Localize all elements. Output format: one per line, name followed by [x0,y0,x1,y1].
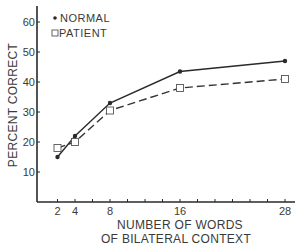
data-point-normal [55,155,59,159]
data-point-patient [282,76,289,83]
x-tick-label: 4 [72,205,78,217]
data-point-normal [283,59,287,63]
data-series [54,59,289,159]
x-tick-label: 2 [54,205,60,217]
x-axis-title-line-1: NUMBER OF WORDS [117,218,243,232]
y-tick-label: 30 [23,106,35,118]
data-point-patient [54,145,61,152]
y-tick-label: 50 [23,46,35,58]
data-point-patient [177,85,184,92]
y-axis-title: PERCENT CORRECT [6,42,20,167]
x-tick-label: 8 [107,205,113,217]
x-tick-label: 16 [174,205,186,217]
legend-patient-marker-icon [52,30,58,36]
y-tick-label: 20 [23,136,35,148]
y-tick-label: 10 [23,166,35,178]
x-tick-label: 28 [279,205,291,217]
series-line-normal [58,61,286,157]
legend-normal-marker-icon [53,16,57,20]
data-point-patient [72,139,79,146]
data-point-patient [107,107,114,114]
data-point-normal [178,69,182,73]
y-tick-label: 60 [23,16,35,28]
series-line-patient [58,79,286,148]
x-axis-title-line-2: OF BILATERAL CONTEXT [101,232,251,246]
line-chart: 102030405060 2481628 PERCENT CORRECT NUM… [0,0,306,249]
y-tick-label: 40 [23,76,35,88]
data-point-normal [73,134,77,138]
legend-normal-label: NORMAL [60,12,110,24]
data-point-normal [108,101,112,105]
legend-patient-label: PATIENT [59,27,107,39]
legend: NORMAL PATIENT [52,12,110,39]
